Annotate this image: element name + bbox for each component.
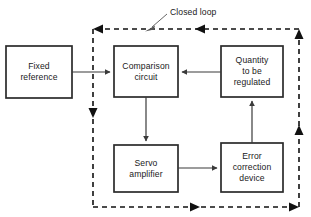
closed-loop-leader-arrowhead (145, 26, 155, 32)
closed-loop-label: Closed loop (170, 7, 217, 17)
closed-loop-arrow-right-mid (295, 125, 304, 135)
closed-loop-arrow-top-left (93, 25, 103, 34)
closed-loop-arrow-top-mid (195, 25, 205, 34)
box-servo-amplifier[interactable] (114, 145, 178, 192)
closed-loop-arrow-bottom-right (289, 203, 299, 212)
box-comparison-circuit[interactable] (114, 46, 178, 97)
closed-loop-arrow-bottom-mid (190, 203, 200, 212)
box-fixed-reference[interactable] (6, 46, 72, 98)
diagram-canvas: Fixed reference Comparison circuit Quant… (0, 0, 311, 217)
box-error-correction-device[interactable] (221, 143, 283, 192)
block-diagram (0, 0, 311, 217)
diagram-boxes (6, 46, 283, 192)
closed-loop-leader-line (152, 14, 167, 27)
closed-loop-arrow-top-right (295, 29, 304, 39)
closed-loop-arrow-left-mid (89, 108, 98, 118)
box-quantity-to-be-regulated[interactable] (221, 46, 283, 97)
